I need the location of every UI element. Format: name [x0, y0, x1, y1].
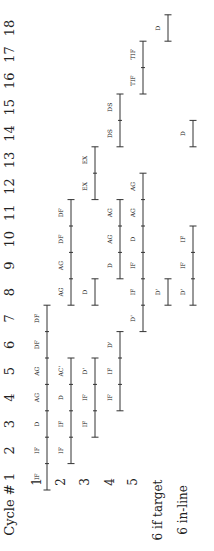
- row-label-6: 6 if target: [151, 479, 165, 540]
- stage-label-tif: TIF: [129, 49, 136, 60]
- cycle-number-12: 12: [2, 178, 17, 195]
- stage-label-if: IF: [129, 262, 136, 269]
- cycle-number-18: 18: [2, 20, 17, 37]
- cycle-number-14: 14: [2, 125, 17, 142]
- stage-label-d: D: [154, 25, 161, 30]
- stage-label-ag: AG: [106, 234, 113, 244]
- stage-label-dprime: D': [179, 288, 186, 295]
- stage-label-if: IF: [129, 289, 136, 296]
- stage-label-d: D: [57, 395, 64, 400]
- stage-label-d: D: [106, 263, 113, 268]
- cycle-number-4: 4: [2, 393, 17, 401]
- stage-label-ex: EX: [81, 181, 88, 190]
- stage-label-if: IF: [81, 394, 88, 401]
- stage-label-if: IF: [81, 421, 88, 428]
- stage-label-tif: TIF: [129, 76, 136, 87]
- stage-label-ag: AG: [57, 287, 64, 297]
- stage-label-ag: AG: [106, 208, 113, 218]
- cycle-number-2: 2: [2, 446, 17, 454]
- stage-label-if: IF: [57, 447, 64, 454]
- stage-label-dprime: D': [81, 368, 88, 375]
- stage-label-ag: AG: [129, 208, 136, 218]
- stage-label-dprime: D': [154, 288, 161, 295]
- stage-label-if: IF: [33, 447, 40, 454]
- row-label-5: 5: [126, 478, 140, 486]
- stage-label-if: IF: [33, 474, 40, 481]
- cycle-number-9: 9: [2, 261, 17, 269]
- stage-label-ag: AG: [33, 393, 40, 403]
- stage-label-if: IF: [179, 236, 186, 243]
- stage-label-acprime: AC': [57, 366, 64, 378]
- row-label-2: 2: [54, 478, 68, 486]
- stage-label-df: DF: [57, 208, 64, 217]
- stage-label-df: DF: [33, 340, 40, 349]
- cycle-header-label: Cycle #: [2, 484, 17, 535]
- stage-label-if: IF: [179, 262, 186, 269]
- stage-label-if: IF: [106, 368, 113, 375]
- cycle-number-8: 8: [2, 288, 17, 296]
- stage-label-ag: AG: [57, 261, 64, 271]
- cycle-number-15: 15: [2, 99, 17, 116]
- stage-label-ag: AG: [129, 182, 136, 192]
- cycle-number-13: 13: [2, 152, 17, 169]
- cycle-number-7: 7: [2, 314, 17, 322]
- cycle-number-6: 6: [2, 341, 17, 349]
- stage-label-dprime: D': [106, 341, 113, 348]
- cycle-number-1: 1: [2, 473, 17, 481]
- row-label-7: 6 in-line: [176, 485, 190, 535]
- stage-label-df: DF: [33, 314, 40, 323]
- row-label-4: 4: [103, 478, 117, 486]
- cycle-number-5: 5: [2, 367, 17, 375]
- cycle-number-16: 16: [2, 73, 17, 90]
- stage-label-ex: EX: [81, 155, 88, 164]
- stage-label-dprime: D': [129, 315, 136, 322]
- pipeline-timing-diagram: Cycle #1234567891011121314151617181IFIFD…: [0, 0, 214, 551]
- cycle-number-3: 3: [2, 420, 17, 428]
- stage-label-d: D: [179, 131, 186, 136]
- stage-label-ds: DS: [106, 103, 113, 112]
- cycle-number-11: 11: [2, 205, 17, 222]
- stage-label-d: D: [33, 421, 40, 426]
- row-label-3: 3: [78, 478, 92, 486]
- stage-label-ds: DS: [106, 129, 113, 138]
- stage-label-ag: AG: [33, 366, 40, 376]
- stage-label-d: D: [81, 289, 88, 294]
- stage-label-d: D: [129, 237, 136, 242]
- stage-label-if: IF: [57, 421, 64, 428]
- stage-label-if: IF: [106, 394, 113, 401]
- stage-label-df: DF: [57, 235, 64, 244]
- cycle-number-10: 10: [2, 231, 17, 248]
- cycle-number-17: 17: [2, 46, 17, 63]
